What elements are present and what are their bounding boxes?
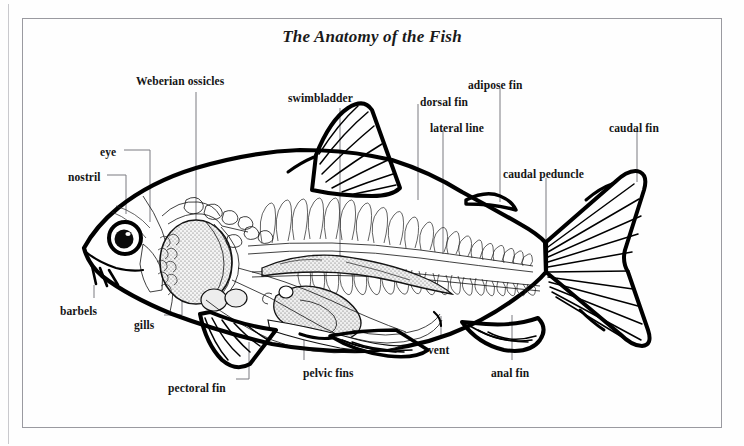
label-anal-fin: anal fin (491, 367, 529, 379)
label-gills: gills (134, 319, 154, 331)
label-weberian-ossicles: Weberian ossicles (136, 75, 224, 87)
label-swimbladder: swimbladder (288, 92, 353, 104)
anatomy-plate: The Anatomy of the Fish (0, 0, 744, 446)
label-caudal-fin: caudal fin (609, 122, 659, 134)
label-pectoral-fin: pectoral fin (168, 382, 226, 394)
plate-frame-border (22, 18, 722, 428)
label-caudal-peduncle: caudal peduncle (503, 168, 584, 180)
label-adipose-fin: adipose fin (468, 79, 522, 91)
label-dorsal-fin: dorsal fin (420, 96, 468, 108)
label-eye: eye (100, 146, 116, 158)
label-pelvic-fins: pelvic fins (303, 367, 354, 379)
label-barbels: barbels (60, 305, 97, 317)
label-lateral-line: lateral line (430, 122, 484, 134)
page-title: The Anatomy of the Fish (0, 27, 744, 47)
label-vent: vent (428, 344, 449, 356)
label-nostril: nostril (68, 171, 101, 183)
